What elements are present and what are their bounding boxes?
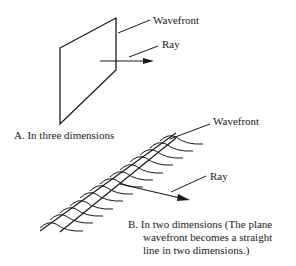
ray-label-b: Ray <box>210 170 228 183</box>
ray-leader-a <box>129 46 158 57</box>
caption-a: A. In three dimensions <box>14 129 114 142</box>
caption-b-line3: line in two dimensions.) <box>128 244 288 257</box>
wave-crests-2d <box>40 136 203 231</box>
wavefront-label-b: Wavefront <box>213 115 259 128</box>
wavefront-leader-b <box>170 124 210 139</box>
ray-arrow-b <box>120 184 190 201</box>
caption-b: B. In two dimensions (The plane wavefron… <box>128 218 288 257</box>
ray-arrow-a <box>100 58 154 64</box>
wavefront-label-a: Wavefront <box>153 14 199 27</box>
ray-leader-b <box>171 176 206 192</box>
caption-b-line1: B. In two dimensions (The plane <box>128 218 288 231</box>
wavefront-leader-a <box>118 20 150 33</box>
plane-wavefront-3d <box>60 18 116 124</box>
ray-label-a: Ray <box>162 38 180 51</box>
caption-b-line2: wavefront becomes a straight <box>128 231 288 244</box>
